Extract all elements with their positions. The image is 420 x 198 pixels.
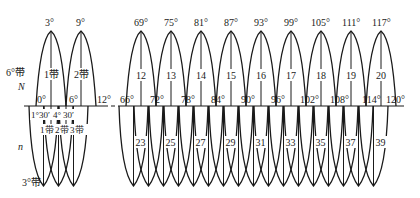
central-meridian-label: 87°	[224, 17, 238, 28]
zone-name: 2带	[55, 125, 69, 135]
zone-number: 37	[346, 137, 356, 148]
zone-number: 12	[136, 70, 146, 81]
zone-name: 1带	[40, 125, 54, 135]
boundary-label: 114°	[362, 94, 381, 105]
zone-number: 35	[316, 137, 326, 148]
zone-number: 19	[346, 70, 356, 81]
boundary-label: 12°	[97, 94, 111, 105]
north-label: N	[17, 81, 26, 92]
zone-name: 3带	[70, 125, 84, 135]
boundary-label: 6°	[69, 94, 78, 105]
zone-number: 39	[376, 137, 386, 148]
zone-number: 25	[166, 137, 176, 148]
zone-name: 2带	[74, 69, 89, 80]
zone-number: 17	[286, 70, 296, 81]
boundary-label: 90°	[241, 94, 255, 105]
left-three-degree-zones: 1°30′ 4° 30′ 1带 2带 3带	[29, 106, 88, 186]
boundary-label: 96°	[271, 94, 285, 105]
boundary-label: 108°	[330, 94, 349, 105]
south-label: n	[18, 141, 23, 152]
gauss-kruger-zone-diagram: 6°带 N n 3°带 3° 9° 1带 2带 0° 6° 12° 1°30′ …	[0, 0, 420, 198]
tick-label: 4°	[53, 110, 62, 120]
boundary-label: 0°	[37, 94, 46, 105]
zone-number: 31	[256, 137, 266, 148]
central-meridian-label: 75°	[164, 17, 178, 28]
zone-number: 13	[166, 70, 176, 81]
zone-diagram-svg: 6°带 N n 3°带 3° 9° 1带 2带 0° 6° 12° 1°30′ …	[0, 0, 420, 198]
right-six-degree-zones: 69° 75° 81° 87° 93° 99° 105° 111° 117° 1…	[120, 17, 405, 106]
zone-number: 15	[226, 70, 236, 81]
zone-number: 14	[196, 70, 206, 81]
central-meridian-label: 9°	[76, 17, 85, 28]
zone-number: 16	[256, 70, 266, 81]
tick-label: 30′	[63, 110, 74, 120]
left-six-degree-zones: 3° 9° 1带 2带 0° 6° 12°	[36, 17, 111, 106]
boundary-label: 72°	[150, 94, 164, 105]
central-meridian-label: 93°	[254, 17, 268, 28]
boundary-label: 102°	[300, 94, 319, 105]
central-meridian-label: 105°	[311, 17, 330, 28]
zone-number: 29	[226, 137, 236, 148]
central-meridian-label: 99°	[284, 17, 298, 28]
central-meridian-label: 111°	[342, 17, 360, 28]
boundary-label: 84°	[211, 94, 225, 105]
zone-number: 23	[136, 137, 146, 148]
central-meridian-label: 81°	[194, 17, 208, 28]
zone-name: 1带	[44, 69, 59, 80]
zone-number: 33	[286, 137, 296, 148]
boundary-label: 78°	[181, 94, 195, 105]
boundary-label: 120°	[386, 94, 405, 105]
three-degree-zone-label: 3°带	[22, 177, 41, 188]
tick-label: 1°30′	[31, 110, 50, 120]
six-degree-zone-label: 6°带	[6, 67, 25, 78]
boundary-label: 66°	[120, 94, 134, 105]
central-meridian-label: 69°	[134, 17, 148, 28]
right-three-degree-zones: 23 25 27 29 31 33 35 37 39	[119, 106, 388, 186]
central-meridian-label: 3°	[45, 17, 54, 28]
zone-number: 20	[376, 70, 386, 81]
zone-number: 18	[316, 70, 326, 81]
zone-number: 27	[196, 137, 206, 148]
central-meridian-label: 117°	[372, 17, 391, 28]
